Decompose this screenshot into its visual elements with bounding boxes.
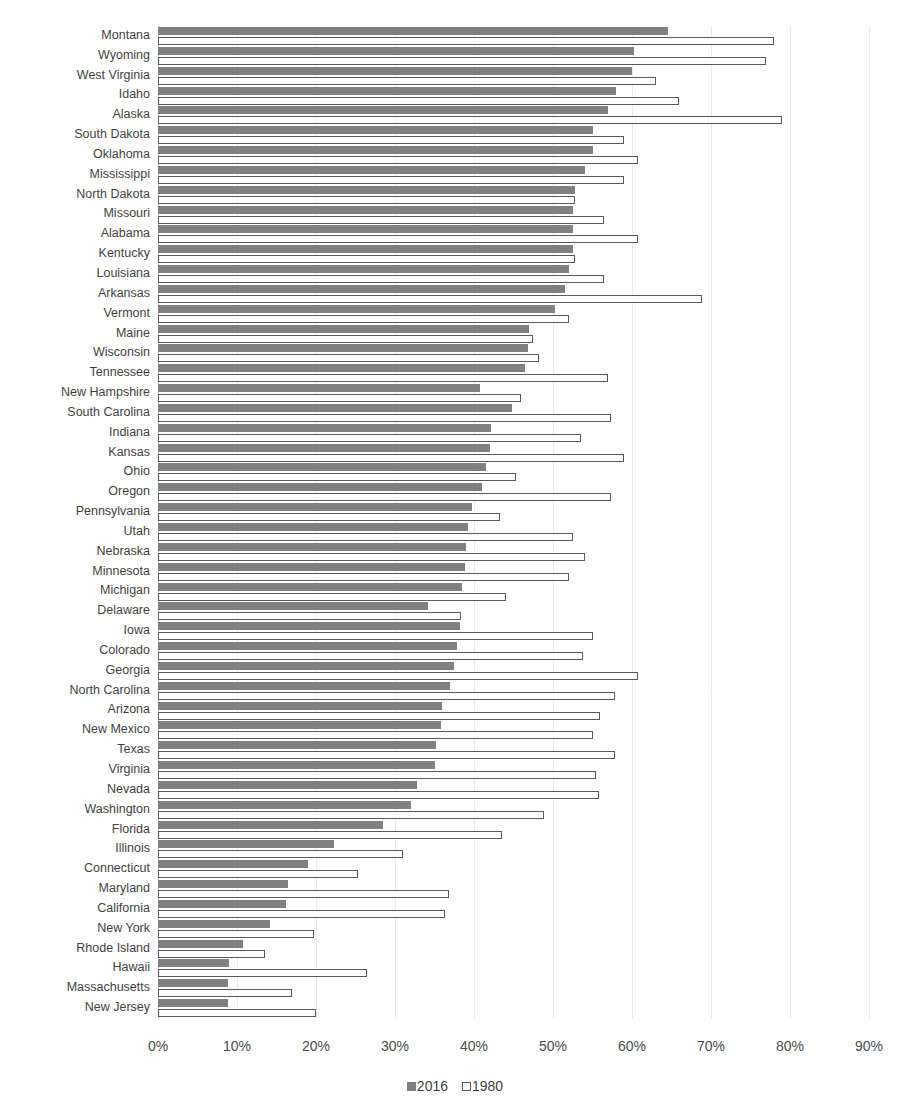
bar-1980-new-hampshire[interactable] <box>158 394 521 402</box>
bar-2016-new-hampshire[interactable] <box>158 384 480 392</box>
bar-1980-massachusetts[interactable] <box>158 989 292 997</box>
bar-2016-missouri[interactable] <box>158 206 573 214</box>
bar-2016-new-jersey[interactable] <box>158 999 228 1007</box>
bar-2016-indiana[interactable] <box>158 424 491 432</box>
bar-2016-montana[interactable] <box>158 27 668 35</box>
bar-2016-texas[interactable] <box>158 741 436 749</box>
bar-1980-pennsylvania[interactable] <box>158 513 500 521</box>
bar-1980-california[interactable] <box>158 910 445 918</box>
bar-1980-kansas[interactable] <box>158 454 624 462</box>
bar-1980-new-jersey[interactable] <box>158 1009 316 1017</box>
bar-1980-wisconsin[interactable] <box>158 354 539 362</box>
bar-2016-virginia[interactable] <box>158 761 435 769</box>
bar-2016-south-dakota[interactable] <box>158 126 593 134</box>
bar-1980-nebraska[interactable] <box>158 553 585 561</box>
bar-1980-virginia[interactable] <box>158 771 596 779</box>
bar-1980-colorado[interactable] <box>158 652 583 660</box>
bar-1980-new-york[interactable] <box>158 930 314 938</box>
bar-2016-kansas[interactable] <box>158 444 490 452</box>
bar-2016-colorado[interactable] <box>158 642 457 650</box>
bar-2016-maryland[interactable] <box>158 880 288 888</box>
bar-1980-michigan[interactable] <box>158 593 506 601</box>
bar-2016-nebraska[interactable] <box>158 543 466 551</box>
bar-2016-michigan[interactable] <box>158 583 462 591</box>
bar-2016-oregon[interactable] <box>158 483 482 491</box>
bar-2016-tennessee[interactable] <box>158 364 525 372</box>
bar-2016-new-mexico[interactable] <box>158 721 441 729</box>
bar-1980-tennessee[interactable] <box>158 374 608 382</box>
bar-2016-south-carolina[interactable] <box>158 404 512 412</box>
bar-2016-massachusetts[interactable] <box>158 979 228 987</box>
bar-2016-north-carolina[interactable] <box>158 682 450 690</box>
bar-1980-connecticut[interactable] <box>158 870 358 878</box>
bar-1980-west-virginia[interactable] <box>158 77 656 85</box>
bar-1980-oklahoma[interactable] <box>158 156 638 164</box>
bar-2016-arkansas[interactable] <box>158 285 565 293</box>
bar-2016-north-dakota[interactable] <box>158 186 575 194</box>
bar-1980-ohio[interactable] <box>158 473 516 481</box>
bar-2016-idaho[interactable] <box>158 87 616 95</box>
bar-2016-utah[interactable] <box>158 523 468 531</box>
bar-1980-maine[interactable] <box>158 335 533 343</box>
bar-2016-alaska[interactable] <box>158 106 608 114</box>
bar-2016-arizona[interactable] <box>158 702 442 710</box>
bar-2016-wisconsin[interactable] <box>158 344 528 352</box>
bar-1980-utah[interactable] <box>158 533 573 541</box>
bar-2016-minnesota[interactable] <box>158 563 465 571</box>
bar-1980-oregon[interactable] <box>158 493 611 501</box>
bar-1980-mississippi[interactable] <box>158 176 624 184</box>
bar-1980-wyoming[interactable] <box>158 57 766 65</box>
bar-1980-iowa[interactable] <box>158 632 593 640</box>
bar-1980-hawaii[interactable] <box>158 969 367 977</box>
bar-2016-oklahoma[interactable] <box>158 146 593 154</box>
bar-1980-new-mexico[interactable] <box>158 731 593 739</box>
bar-1980-minnesota[interactable] <box>158 573 569 581</box>
bar-1980-nevada[interactable] <box>158 791 599 799</box>
bar-2016-rhode-island[interactable] <box>158 940 243 948</box>
legend-item-1980[interactable]: 1980 <box>462 1077 503 1094</box>
bar-2016-pennsylvania[interactable] <box>158 503 472 511</box>
bar-1980-illinois[interactable] <box>158 850 403 858</box>
bar-1980-missouri[interactable] <box>158 216 604 224</box>
bar-2016-iowa[interactable] <box>158 622 460 630</box>
bar-1980-south-dakota[interactable] <box>158 136 624 144</box>
bar-2016-alabama[interactable] <box>158 225 573 233</box>
bar-2016-nevada[interactable] <box>158 781 417 789</box>
bar-2016-connecticut[interactable] <box>158 860 308 868</box>
bar-1980-north-dakota[interactable] <box>158 196 575 204</box>
bar-2016-delaware[interactable] <box>158 602 428 610</box>
bar-1980-kentucky[interactable] <box>158 255 575 263</box>
bar-2016-hawaii[interactable] <box>158 959 229 967</box>
bar-1980-alaska[interactable] <box>158 116 782 124</box>
bar-1980-florida[interactable] <box>158 831 502 839</box>
bar-1980-arkansas[interactable] <box>158 295 702 303</box>
legend-item-2016[interactable]: 2016 <box>407 1077 448 1094</box>
bar-2016-washington[interactable] <box>158 801 411 809</box>
bar-2016-louisiana[interactable] <box>158 265 569 273</box>
bar-2016-california[interactable] <box>158 900 286 908</box>
bar-1980-indiana[interactable] <box>158 434 581 442</box>
bar-1980-delaware[interactable] <box>158 612 461 620</box>
bar-2016-new-york[interactable] <box>158 920 270 928</box>
bar-2016-ohio[interactable] <box>158 463 486 471</box>
bar-1980-georgia[interactable] <box>158 672 638 680</box>
bar-2016-mississippi[interactable] <box>158 166 585 174</box>
bar-1980-vermont[interactable] <box>158 315 569 323</box>
bar-1980-rhode-island[interactable] <box>158 950 265 958</box>
bar-1980-montana[interactable] <box>158 37 774 45</box>
bar-1980-washington[interactable] <box>158 811 544 819</box>
bar-2016-florida[interactable] <box>158 821 383 829</box>
bar-2016-wyoming[interactable] <box>158 47 634 55</box>
bar-1980-alabama[interactable] <box>158 235 638 243</box>
bar-2016-west-virginia[interactable] <box>158 67 632 75</box>
bar-2016-illinois[interactable] <box>158 840 334 848</box>
bar-1980-maryland[interactable] <box>158 890 449 898</box>
bar-2016-georgia[interactable] <box>158 662 454 670</box>
bar-2016-vermont[interactable] <box>158 305 555 313</box>
bar-1980-idaho[interactable] <box>158 97 679 105</box>
bar-1980-south-carolina[interactable] <box>158 414 611 422</box>
bar-2016-maine[interactable] <box>158 325 529 333</box>
bar-1980-louisiana[interactable] <box>158 275 604 283</box>
bar-1980-north-carolina[interactable] <box>158 692 615 700</box>
bar-1980-arizona[interactable] <box>158 712 600 720</box>
